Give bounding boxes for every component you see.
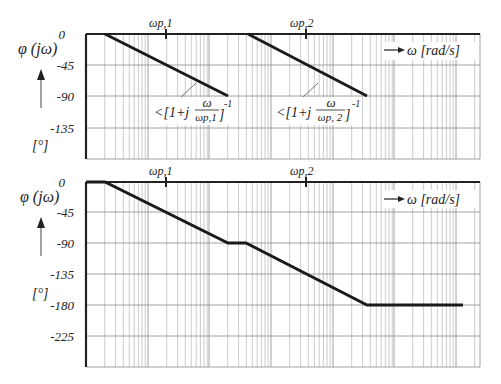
top-ytick: -135 — [50, 121, 74, 136]
top-ytick: -90 — [57, 89, 75, 104]
bottom-ytick: 0 — [59, 175, 66, 190]
ann1-exponent: -1 — [224, 98, 232, 109]
up-arrow-icon — [37, 217, 45, 228]
bottom-ytick: -45 — [57, 205, 75, 220]
top-ytick: -45 — [57, 58, 75, 73]
ann1-denominator: ωp,1 — [195, 111, 217, 123]
ann2-numerator: ω — [326, 95, 335, 110]
top-xaxis-label: ω [rad/s] — [407, 43, 460, 58]
bottom-marker-wp2-label: ωp,2 — [290, 164, 313, 178]
ann2-exponent: -1 — [352, 98, 360, 109]
bottom-ytick: -180 — [50, 298, 74, 313]
bottom-ytick: -135 — [50, 267, 74, 282]
ann1-bracket: ] — [218, 107, 224, 122]
top-marker-wp1-label: ωp,1 — [149, 16, 172, 30]
bottom-ytick: -90 — [57, 236, 75, 251]
ann2-bracket: ] — [344, 107, 350, 122]
up-arrow-icon — [37, 69, 45, 80]
bottom-xaxis-label: ω [rad/s] — [407, 192, 460, 207]
top-marker-wp2-label: ωp,2 — [290, 16, 313, 30]
bottom-chart: 0 -45 -90 -135 -180 -225 φ (jω) [°] ωp,1… — [20, 164, 480, 367]
ann2-prefix: <[1+j — [276, 105, 311, 120]
bottom-marker-wp1-label: ωp,1 — [149, 164, 172, 178]
top-chart: 0 -45 -90 -135 φ (jω) [°] ωp,1 ωp,2 ω [r… — [18, 16, 480, 159]
ann2-denominator: ωp, 2 — [318, 111, 343, 123]
top-yunit: [°] — [32, 138, 49, 153]
bottom-chart-grid — [86, 182, 480, 367]
top-ytick: 0 — [59, 27, 66, 42]
ann1-prefix: <[1+j — [154, 105, 189, 120]
top-ylabel: φ (jω) — [18, 40, 57, 58]
bode-phase-figure: 0 -45 -90 -135 φ (jω) [°] ωp,1 ωp,2 ω [r… — [0, 0, 501, 384]
ann1-numerator: ω — [202, 95, 211, 110]
bottom-ylabel: φ (jω) — [20, 188, 59, 206]
bottom-ytick: -225 — [50, 329, 74, 344]
bottom-yunit: [°] — [32, 286, 49, 301]
